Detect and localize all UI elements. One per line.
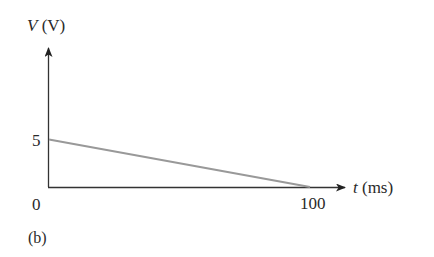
x-axis-label: t (ms) — [353, 179, 393, 196]
voltage-line — [49, 140, 310, 188]
y-tick-5: 5 — [32, 132, 41, 149]
panel-label: (b) — [28, 230, 47, 246]
chart-plot-area — [0, 0, 434, 257]
x-axis-unit: (ms) — [362, 178, 393, 197]
y-axis-variable: V — [27, 16, 37, 35]
x-tick-0: 0 — [32, 196, 41, 213]
voltage-time-chart: V (V) 5 0 100 t (ms) (b) — [0, 0, 434, 257]
x-axis-variable: t — [353, 178, 358, 197]
y-axis-label: V (V) — [27, 17, 65, 34]
y-axis-unit: (V) — [42, 16, 66, 35]
x-tick-100: 100 — [300, 195, 326, 212]
